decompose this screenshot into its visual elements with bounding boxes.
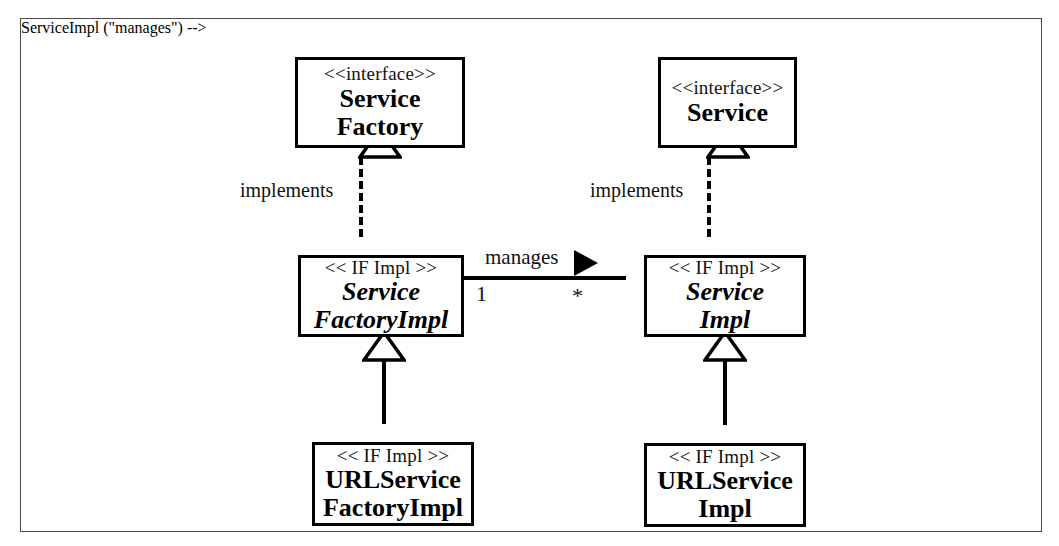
class-box-service-factory-impl[interactable]: << IF Impl >> Service FactoryImpl bbox=[298, 255, 464, 337]
multiplicity-target: * bbox=[572, 283, 583, 309]
class-name-line-2: Impl bbox=[700, 306, 751, 334]
figure-frame: ServiceImpl ("manages") --> implements i… bbox=[20, 18, 1042, 532]
stereotype-label: << IF Impl >> bbox=[669, 258, 782, 277]
stereotype-label: << IF Impl >> bbox=[337, 446, 450, 465]
association-line-manages bbox=[442, 276, 626, 280]
class-box-service-factory[interactable]: <<interface>> Service Factory bbox=[295, 57, 465, 148]
class-box-service[interactable]: <<interface>> Service bbox=[658, 57, 797, 148]
diagram-canvas: ServiceImpl ("manages") --> implements i… bbox=[0, 0, 1059, 546]
class-name-line-1: URLService bbox=[325, 466, 461, 494]
stereotype-label: <<interface>> bbox=[672, 78, 784, 97]
association-label-manages: manages bbox=[485, 245, 558, 270]
class-name-line-2: Impl bbox=[698, 495, 751, 523]
implements-label-left: implements bbox=[240, 179, 333, 202]
class-name-line-2: FactoryImpl bbox=[323, 494, 463, 522]
class-name-line-2: FactoryImpl bbox=[314, 306, 448, 334]
implements-label-right: implements bbox=[590, 179, 683, 202]
stereotype-label: << IF Impl >> bbox=[669, 447, 782, 466]
class-name-line-1: Service bbox=[340, 85, 421, 113]
class-name-line-1: URLService bbox=[657, 467, 793, 495]
realization-line-right bbox=[707, 157, 711, 237]
class-box-url-service-impl[interactable]: << IF Impl >> URLService Impl bbox=[644, 443, 806, 527]
realization-line-left bbox=[359, 157, 363, 237]
class-name-line-2: Factory bbox=[337, 113, 424, 141]
class-name-line-1: Service bbox=[687, 99, 768, 127]
generalization-line-left bbox=[382, 359, 386, 424]
multiplicity-source: 1 bbox=[476, 281, 487, 307]
class-name-line-1: Service bbox=[342, 278, 420, 306]
stereotype-label: <<interface>> bbox=[324, 64, 436, 83]
generalization-line-right bbox=[723, 359, 727, 425]
class-name-line-1: Service bbox=[686, 278, 764, 306]
class-box-url-service-factory-impl[interactable]: << IF Impl >> URLService FactoryImpl bbox=[312, 442, 474, 526]
stereotype-label: << IF Impl >> bbox=[325, 258, 438, 277]
class-box-service-impl[interactable]: << IF Impl >> Service Impl bbox=[644, 255, 806, 337]
association-navigation-arrowhead bbox=[574, 250, 598, 276]
